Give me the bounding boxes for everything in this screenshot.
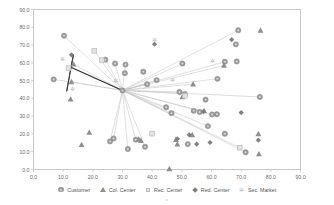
- marker-customer: [63, 35, 65, 37]
- diamond-marker: [191, 187, 198, 194]
- marker-customer: [113, 137, 115, 139]
- marker-customer: [237, 29, 239, 31]
- marker-customer: [142, 71, 144, 73]
- y-tick-label: 90.0: [8, 7, 30, 13]
- x-tick-label: 80.0: [259, 174, 283, 180]
- marker-sec-market: ✲: [60, 56, 65, 62]
- marker-col-center: [79, 142, 85, 147]
- marker-sec-market: ✲: [170, 77, 175, 83]
- marker-customer: [127, 148, 129, 150]
- y-tick-label: 30.0: [8, 113, 30, 119]
- diamond-marker-glyph: [192, 187, 198, 193]
- marker-col-center: [174, 141, 180, 146]
- triangle-marker: [99, 187, 106, 194]
- marker-customer: [187, 143, 189, 145]
- circle-marker: [58, 187, 65, 194]
- marker-col-center: [166, 166, 172, 171]
- x-tick-label: 30.0: [111, 174, 135, 180]
- marker-rec-center: [182, 93, 187, 98]
- marker-red-center: [256, 138, 261, 143]
- spoke-lines: [54, 30, 260, 152]
- marker-red-center: [194, 141, 199, 146]
- marker-customer: [124, 72, 126, 74]
- spoke-line: [110, 90, 122, 141]
- spoke-line: [123, 90, 185, 94]
- y-tick-label: 80.0: [8, 24, 30, 30]
- marker-customer: [193, 110, 195, 112]
- x-tick-label: 60.0: [200, 174, 224, 180]
- marker-customer: [235, 43, 237, 45]
- y-tick-label: 60.0: [8, 60, 30, 66]
- legend-item-col-center[interactable]: Col. Center: [99, 187, 135, 194]
- marker-red-center: [207, 140, 212, 145]
- y-tick-label: 50.0: [8, 78, 30, 84]
- square-marker: [145, 187, 152, 194]
- legend-item-customer[interactable]: Customer: [58, 187, 90, 194]
- legend-item-rec-center[interactable]: Rec. Center: [145, 187, 183, 194]
- marker-customer: [211, 113, 213, 115]
- spoke-line: [123, 30, 239, 90]
- marker-customer: [245, 151, 247, 153]
- x-tick-label: 50.0: [170, 174, 194, 180]
- legend-label: Customer: [67, 187, 90, 193]
- legend-item-sec-market[interactable]: ✲Sec. Market: [238, 187, 276, 194]
- marker-sec-market: ✲: [152, 37, 157, 43]
- y-tick-label: 0.0: [8, 167, 30, 173]
- y-tick-label: 20.0: [8, 131, 30, 137]
- y-tick-label: 10.0: [8, 149, 30, 155]
- marker-col-center: [256, 151, 262, 156]
- x-tick-label: 40.0: [140, 174, 164, 180]
- marker-rec-center: [150, 131, 155, 136]
- legend-item-red-center[interactable]: Red. Center: [191, 187, 229, 194]
- circle-marker-glyph: [58, 187, 63, 192]
- marker-sec-market: ✲: [70, 86, 75, 92]
- star-marker-glyph: ✲: [238, 187, 245, 194]
- legend-label: Rec. Center: [154, 187, 182, 193]
- marker-col-center: [258, 27, 264, 32]
- marker-customer: [205, 99, 207, 101]
- x-tick-label: 70.0: [229, 174, 253, 180]
- chart-canvas: ✲✲✲✲✲✲: [0, 0, 334, 205]
- x-tick-label: 0.0: [22, 174, 46, 180]
- marker-customer: [181, 63, 183, 65]
- x-tick-label: 20.0: [81, 174, 105, 180]
- triangle-marker-glyph: [100, 187, 106, 192]
- marker-customer: [124, 64, 126, 66]
- marker-customer: [216, 78, 218, 80]
- legend-label: Red. Center: [201, 187, 230, 193]
- marker-customer: [135, 139, 137, 141]
- marker-customer: [199, 111, 201, 113]
- footer-dot: [166, 199, 168, 201]
- y-tick-label: 70.0: [8, 42, 30, 48]
- spoke-line: [123, 65, 126, 91]
- square-marker-glyph: [146, 188, 151, 193]
- marker-col-center: [86, 129, 92, 134]
- hub-marker: [122, 89, 124, 91]
- legend-label: Col. Center: [109, 187, 136, 193]
- marker-rec-center: [237, 145, 242, 150]
- x-tick-label: 90.0: [289, 174, 313, 180]
- marker-customer: [259, 96, 261, 98]
- marker-customer: [114, 63, 116, 65]
- marker-red-center: [239, 110, 244, 115]
- x-tick-label: 10.0: [51, 174, 75, 180]
- scatter-chart: ✲✲✲✲✲✲ 0.010.020.030.040.050.060.070.080…: [0, 0, 334, 205]
- marker-col-center: [255, 131, 261, 136]
- marker-customer: [216, 113, 218, 115]
- marker-customer: [109, 140, 111, 142]
- marker-sec-market: ✲: [210, 58, 215, 64]
- marker-customer: [165, 106, 167, 108]
- marker-rec-center: [99, 58, 104, 63]
- marker-customer: [53, 78, 55, 80]
- marker-sec-market: ✲: [113, 78, 118, 84]
- marker-customer: [170, 112, 172, 114]
- marker-customer: [207, 125, 209, 127]
- marker-customer: [144, 146, 146, 148]
- marker-col-center: [69, 79, 75, 84]
- marker-customer: [156, 79, 158, 81]
- marker-customer: [104, 59, 106, 61]
- y-tick-label: 40.0: [8, 95, 30, 101]
- marker-customer: [178, 91, 180, 93]
- marker-customer: [146, 83, 148, 85]
- spoke-line: [114, 90, 123, 138]
